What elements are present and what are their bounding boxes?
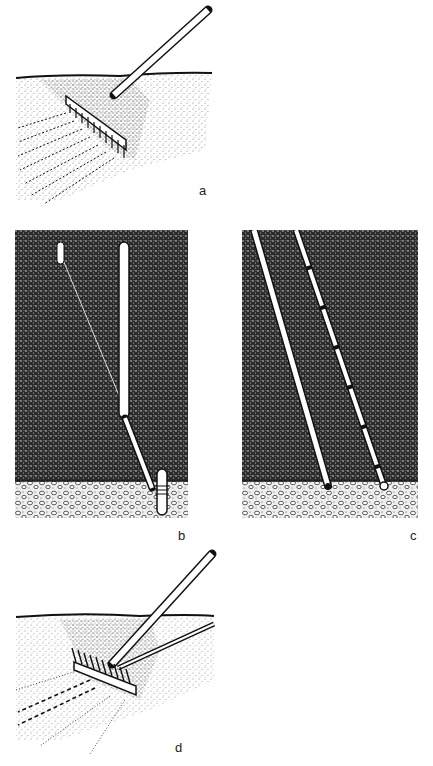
panel-a: a bbox=[0, 0, 230, 210]
panel-b bbox=[15, 230, 188, 518]
panel-label-c: c bbox=[410, 528, 417, 543]
panel-c bbox=[242, 230, 418, 518]
panel-label-d: d bbox=[175, 740, 182, 755]
rake-furrow-illustration-a bbox=[0, 0, 230, 210]
soil-cross-section-b bbox=[15, 230, 188, 518]
panel-d: d bbox=[0, 540, 240, 766]
rake-with-rod-illustration-d bbox=[0, 540, 240, 766]
soil-cross-section-c bbox=[242, 230, 418, 518]
panel-label-a: a bbox=[199, 183, 206, 198]
